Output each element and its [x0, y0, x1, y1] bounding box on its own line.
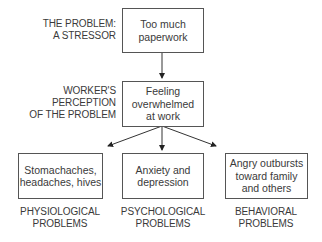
psychological-label-line: PROBLEMS [113, 218, 213, 230]
psychological-box-line: Anxiety and [136, 164, 191, 177]
psychological-label-line: PSYCHOLOGICAL [113, 206, 213, 218]
physiological-box: Stomachaches, headaches, hives [18, 153, 103, 199]
stressor-box-line: paperwork [138, 31, 187, 44]
arrow-to-physiological [108, 126, 162, 146]
physiological-box-line: headaches, hives [20, 176, 102, 189]
perception-box-line: Feeling [132, 85, 194, 98]
physiological-box-line: Stomachaches, [20, 164, 102, 177]
arrow-to-behavioral [162, 126, 216, 146]
behavioral-label: BEHAVIORAL PROBLEMS [216, 206, 316, 230]
stressor-label: THE PROBLEM: A STRESSOR [43, 18, 116, 42]
perception-label: WORKER'S PERCEPTION OF THE PROBLEM [29, 85, 116, 121]
behavioral-box-line: Angry outbursts [230, 157, 304, 170]
stressor-box: Too much paperwork [122, 8, 204, 53]
perception-label-line: PERCEPTION [29, 97, 116, 109]
perception-label-line: WORKER'S [29, 85, 116, 97]
psychological-label: PSYCHOLOGICAL PROBLEMS [113, 206, 213, 230]
behavioral-label-line: PROBLEMS [216, 218, 316, 230]
psychological-box-line: depression [136, 176, 191, 189]
physiological-label-line: PROBLEMS [10, 218, 110, 230]
behavioral-box-line: and others [230, 182, 304, 195]
perception-box-line: overwhelmed [132, 98, 194, 111]
stressor-label-line: THE PROBLEM: [43, 18, 116, 30]
stressor-label-line: A STRESSOR [43, 30, 116, 42]
behavioral-label-line: BEHAVIORAL [216, 206, 316, 218]
psychological-box: Anxiety and depression [122, 153, 204, 199]
perception-label-line: OF THE PROBLEM [29, 109, 116, 121]
physiological-label-line: PHYSIOLOGICAL [10, 206, 110, 218]
physiological-label: PHYSIOLOGICAL PROBLEMS [10, 206, 110, 230]
perception-box-line: at work [132, 110, 194, 123]
behavioral-box: Angry outbursts toward family and others [225, 153, 308, 199]
perception-box: Feeling overwhelmed at work [122, 81, 204, 127]
stressor-box-line: Too much [138, 18, 187, 31]
behavioral-box-line: toward family [230, 170, 304, 183]
